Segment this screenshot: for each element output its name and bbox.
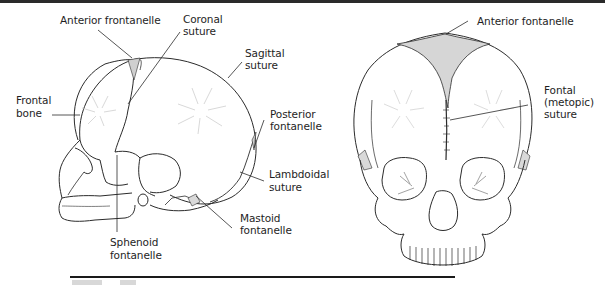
label-sagittal-suture-line1: Sagittal [245, 47, 284, 59]
bottom-rule [70, 276, 455, 278]
label-frontal-suture-line2: (metopic) [544, 96, 594, 108]
label-posterior-fontanelle-line1: Posterior [270, 108, 316, 120]
label-lambdoidal-suture-line1: Lambdoidal [269, 168, 329, 180]
label-sphenoid-fontanelle-line1: Sphenoid [110, 236, 158, 248]
label-sphenoid-fontanelle-line2: fontanelle [110, 249, 162, 261]
anterior-skull [354, 33, 532, 266]
label-mastoid-fontanelle-line1: Mastoid [240, 212, 280, 224]
figure-caption-fragment [72, 280, 102, 285]
lateral-leader-lines [52, 30, 264, 232]
label-coronal-suture-line2: suture [183, 25, 216, 37]
label-frontal-bone-line2: bone [16, 107, 42, 119]
label-coronal-suture-line1: Coronal [183, 13, 223, 25]
skull-illustrations [0, 0, 605, 285]
label-mastoid-fontanelle-line2: fontanelle [240, 224, 292, 236]
anterior-leader-lines [446, 21, 528, 120]
label-frontal-bone-line1: Frontal [16, 94, 51, 106]
label-frontal-suture-line1: Fontal [544, 84, 576, 96]
label-lambdoidal-suture-line2: suture [269, 181, 302, 193]
label-anterior-frontanelle: Anterior frontanelle [60, 14, 161, 26]
figure-caption-fragment [120, 280, 136, 285]
label-anterior-fontanelle: Anterior fontanelle [477, 15, 574, 27]
label-sagittal-suture-line2: suture [245, 59, 278, 71]
lateral-skull [59, 58, 256, 222]
label-frontal-suture-line3: suture [544, 108, 577, 120]
label-posterior-fontanelle-line2: fontanelle [270, 120, 322, 132]
